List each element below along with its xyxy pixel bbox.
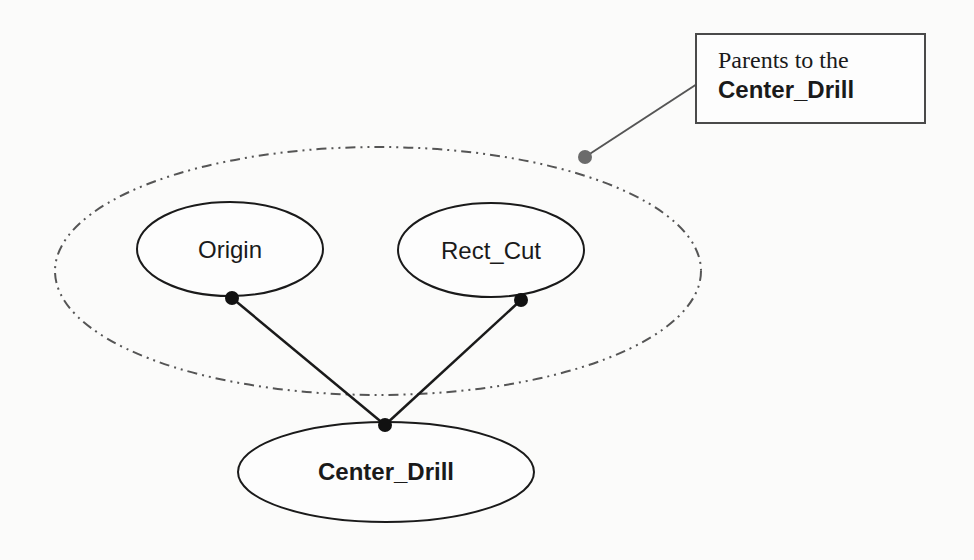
node-origin-label: Origin [198,236,262,264]
callout-anchor-dot [578,150,592,164]
node-rect-cut-label: Rect_Cut [441,237,541,265]
edge-origin-to-center-drill [232,298,385,425]
callout-leader-line [585,84,697,157]
rect-cut-connector-dot [514,293,528,307]
edge-rect-cut-to-center-drill [385,300,521,425]
center-drill-connector-dot [378,418,392,432]
callout-text-line1: Parents to the [718,45,924,75]
callout-text-line2: Center_Drill [718,75,924,105]
node-center-drill-label: Center_Drill [318,458,454,486]
origin-connector-dot [225,291,239,305]
callout-box: Parents to the Center_Drill [695,33,926,124]
